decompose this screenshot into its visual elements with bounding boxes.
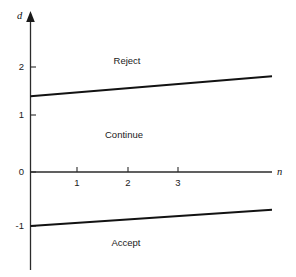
x-tick-label-2: 2 [118, 178, 138, 188]
upper-boundary-line [31, 76, 273, 96]
region-label-accept: Accept [96, 238, 156, 248]
y-axis-label: d [17, 11, 22, 22]
region-label-reject: Reject [97, 56, 157, 66]
y-tick-label-1: 1 [8, 110, 24, 120]
x-axis-label: n [277, 167, 282, 178]
y-axis-arrow-icon [26, 11, 35, 22]
chart-figure: d n 2 1 0 -1 1 2 3 Reject Continue Accep… [0, 0, 296, 277]
y-tick-label-minus-1: -1 [4, 221, 24, 231]
y-tick-label-2: 2 [8, 62, 24, 72]
x-tick-label-1: 1 [67, 178, 87, 188]
lower-boundary-line [31, 210, 273, 226]
y-tick-label-0: 0 [8, 167, 24, 177]
region-label-continue: Continue [94, 130, 154, 140]
x-tick-label-3: 3 [168, 178, 188, 188]
